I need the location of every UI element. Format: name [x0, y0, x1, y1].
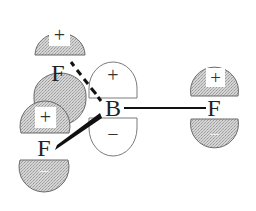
- fluorine-right-upper-lobe: +: [190, 67, 238, 96]
- fluorine-back-upper-lobe: +: [35, 24, 85, 55]
- bf3-orbital-diagram: + − + F: [0, 0, 256, 211]
- fluorine-front-label: F: [37, 135, 50, 161]
- fluorine-back-label: F: [51, 60, 64, 86]
- fluorine-right-minus-sign: −: [209, 124, 220, 145]
- fluorine-right-plus-sign: +: [210, 67, 221, 88]
- fluorine-right-lower-lobe: −: [191, 119, 239, 148]
- fluorine-back-plus-sign: +: [54, 24, 65, 46]
- boron-plus-sign: +: [107, 64, 118, 86]
- fluorine-right-label: F: [207, 95, 220, 121]
- fluorine-front-minus-sign: −: [38, 160, 49, 182]
- fluorine-front-plus-sign: +: [40, 106, 51, 128]
- fluorine-front-lower-lobe: −: [19, 160, 69, 192]
- boron-minus-sign: −: [107, 123, 118, 145]
- boron-label: B: [105, 95, 121, 121]
